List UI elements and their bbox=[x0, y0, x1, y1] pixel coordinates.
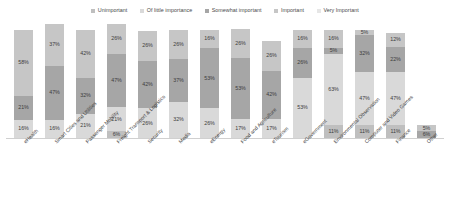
bar-column[interactable]: 16%26%53% bbox=[287, 24, 318, 138]
bar-segment[interactable]: 16% bbox=[293, 30, 312, 48]
bar-segment-value-label: 53% bbox=[235, 86, 245, 91]
bar-segment[interactable]: 21% bbox=[14, 96, 33, 120]
bar-segment-value-label: 47% bbox=[359, 96, 369, 101]
bar-segment-value-label: 47% bbox=[49, 90, 59, 95]
bar-column[interactable]: 26%53%17% bbox=[225, 24, 256, 138]
bar-stack: 58%21%16% bbox=[14, 24, 33, 138]
x-axis-tick: eHealth bbox=[8, 139, 39, 197]
bar-column[interactable]: 16%53%26% bbox=[194, 24, 225, 138]
bar-segment[interactable]: 26% bbox=[262, 41, 281, 71]
bar-segment-value-label: 53% bbox=[204, 76, 214, 81]
legend-swatch-icon bbox=[205, 9, 209, 13]
bar-stack: 37%47%16% bbox=[45, 24, 64, 138]
legend-entry[interactable]: Somewhat important bbox=[205, 8, 261, 13]
bar-segment-value-label: 32% bbox=[173, 117, 183, 122]
x-axis-tick: Passenger Mobility bbox=[70, 139, 101, 197]
bar-segment-value-label: 5% bbox=[330, 48, 338, 53]
legend-label: Unimportant bbox=[98, 8, 128, 13]
x-axis-tick: Media bbox=[163, 139, 194, 197]
bar-segment-value-label: 42% bbox=[80, 51, 90, 56]
bar-segment-value-label: 21% bbox=[18, 105, 28, 110]
legend-swatch-icon bbox=[317, 9, 321, 13]
bar-segment[interactable]: 26% bbox=[169, 30, 188, 60]
bar-segment[interactable]: 22% bbox=[386, 47, 405, 72]
bar-segment-value-label: 21% bbox=[80, 123, 90, 128]
bar-segment-value-label: 32% bbox=[80, 93, 90, 98]
bar-segment-value-label: 26% bbox=[173, 42, 183, 47]
chart-legend: UnimportantOf little importanceSomewhat … bbox=[0, 4, 450, 18]
bar-segment-value-label: 42% bbox=[142, 82, 152, 87]
legend-swatch-icon bbox=[140, 9, 144, 13]
legend-entry[interactable]: Important bbox=[274, 8, 303, 13]
bar-segment[interactable]: 37% bbox=[45, 24, 64, 66]
bar-segment-value-label: 26% bbox=[204, 121, 214, 126]
legend-swatch-icon bbox=[274, 9, 278, 13]
x-axis-tick: eGovernment bbox=[287, 139, 318, 197]
bar-segment[interactable]: 26% bbox=[138, 31, 157, 61]
bar-segment-value-label: 5% bbox=[423, 126, 431, 131]
bar-segment-value-label: 37% bbox=[173, 78, 183, 83]
x-axis-tick: Food and Agriculture bbox=[225, 139, 256, 197]
bar-segment-value-label: 37% bbox=[49, 42, 59, 47]
bar-segment[interactable]: 63% bbox=[324, 54, 343, 126]
bar-segment-value-label: 26% bbox=[266, 53, 276, 58]
bar-segment[interactable]: 12% bbox=[386, 33, 405, 47]
x-axis-tick: Computer and Video Games bbox=[349, 139, 380, 197]
bar-segment[interactable]: 32% bbox=[355, 35, 374, 71]
legend-label: Very Important bbox=[323, 8, 358, 13]
stacked-bar-chart: UnimportantOf little importanceSomewhat … bbox=[0, 0, 450, 199]
bar-segment-value-label: 26% bbox=[111, 36, 121, 41]
bar-segment[interactable]: 42% bbox=[76, 30, 95, 78]
bar-column[interactable]: 37%47%16% bbox=[39, 24, 70, 138]
bar-segment-value-label: 5% bbox=[361, 30, 369, 35]
bar-segment-value-label: 26% bbox=[142, 121, 152, 126]
legend-entry[interactable]: Very Important bbox=[317, 8, 359, 13]
bar-segment[interactable]: 26% bbox=[231, 29, 250, 59]
bar-stack: 26%37%32% bbox=[169, 24, 188, 138]
bar-segment[interactable]: 53% bbox=[231, 58, 250, 118]
bar-segment-value-label: 17% bbox=[235, 126, 245, 131]
bar-segment-value-label: 63% bbox=[328, 87, 338, 92]
legend-entry[interactable]: Of little importance bbox=[140, 8, 192, 13]
bar-segment-value-label: 47% bbox=[111, 78, 121, 83]
x-axis-tick: Environmental Observation bbox=[318, 139, 349, 197]
legend-swatch-icon bbox=[91, 9, 95, 13]
x-axis-tick: Other bbox=[411, 139, 442, 197]
x-axis-tick: Finance bbox=[380, 139, 411, 197]
bar-segment-value-label: 32% bbox=[359, 51, 369, 56]
bar-column[interactable]: 5%6% bbox=[411, 24, 442, 138]
bar-segment-value-label: 16% bbox=[18, 126, 28, 131]
bar-segment[interactable]: 47% bbox=[45, 66, 64, 120]
bar-segment[interactable]: 47% bbox=[107, 54, 126, 108]
bar-stack: 5%6% bbox=[417, 24, 436, 138]
bar-segment-value-label: 16% bbox=[49, 126, 59, 131]
legend-entry[interactable]: Unimportant bbox=[91, 8, 127, 13]
x-axis-category-labels: eHealthSmart Cities and UtilitiesPasseng… bbox=[8, 139, 442, 197]
bar-segment[interactable]: 58% bbox=[14, 30, 33, 96]
bar-stack: 26%53%17% bbox=[231, 24, 250, 138]
bar-segment-value-label: 53% bbox=[297, 105, 307, 110]
x-axis-tick: Security bbox=[132, 139, 163, 197]
bar-segment[interactable]: 53% bbox=[200, 48, 219, 108]
bar-stack: 16%26%53% bbox=[293, 24, 312, 138]
bar-segment[interactable]: 26% bbox=[293, 48, 312, 78]
bar-segment[interactable]: 37% bbox=[169, 59, 188, 101]
bar-segment[interactable]: 26% bbox=[107, 24, 126, 54]
bar-segment[interactable]: 16% bbox=[324, 30, 343, 48]
bar-segment-value-label: 12% bbox=[390, 37, 400, 42]
bar-stack: 16%53%26% bbox=[200, 24, 219, 138]
bar-segment[interactable]: 53% bbox=[293, 78, 312, 138]
bar-segment-value-label: 26% bbox=[235, 41, 245, 46]
bar-segment-value-label: 26% bbox=[297, 60, 307, 65]
bar-segment-value-label: 17% bbox=[266, 126, 276, 131]
bar-segment-value-label: 16% bbox=[328, 36, 338, 41]
x-axis-tick: Smart Cities and Utilities bbox=[39, 139, 70, 197]
bar-column[interactable]: 26%37%32% bbox=[163, 24, 194, 138]
bar-segment-value-label: 16% bbox=[297, 36, 307, 41]
bar-column[interactable]: 58%21%16% bbox=[8, 24, 39, 138]
bar-segment-value-label: 22% bbox=[390, 57, 400, 62]
legend-label: Somewhat important bbox=[212, 8, 262, 13]
bar-segment[interactable]: 16% bbox=[200, 30, 219, 48]
x-axis-tick: eEnergy bbox=[194, 139, 225, 197]
bar-segment-value-label: 42% bbox=[266, 92, 276, 97]
